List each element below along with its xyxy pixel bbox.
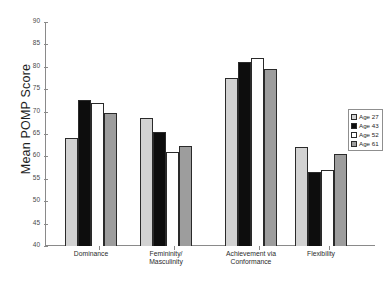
legend-label: Age 43: [359, 122, 379, 129]
bar[interactable]: [153, 132, 166, 246]
bar-set: [65, 22, 121, 246]
bar[interactable]: [334, 154, 347, 246]
bar-group: [65, 22, 121, 246]
bar-group: [225, 22, 281, 246]
y-tick-label: 60: [33, 151, 40, 158]
bar-set: [140, 22, 196, 246]
bar[interactable]: [104, 113, 117, 247]
plot-area: 9085807570656055504540 DominanceFeminini…: [45, 22, 375, 246]
x-category-label: Flexibility: [261, 250, 381, 258]
y-tick-label: 70: [33, 107, 40, 114]
legend-item[interactable]: Age 52: [351, 130, 379, 139]
y-tick-label: 90: [33, 17, 40, 24]
legend-item[interactable]: Age 43: [351, 121, 379, 130]
chart-legend: Age 27 Age 43 Age 52 Age 61: [348, 109, 383, 151]
legend-swatch-icon: [351, 114, 357, 120]
bar[interactable]: [179, 146, 192, 246]
legend-item[interactable]: Age 61: [351, 139, 379, 148]
legend-swatch-icon: [351, 132, 357, 138]
y-tick-label: 40: [33, 241, 40, 248]
bar-set: [225, 22, 281, 246]
bar-groups: DominanceFemininity/ MasculinityAchievem…: [45, 22, 375, 246]
bar[interactable]: [65, 138, 78, 246]
y-tick-label: 45: [33, 219, 40, 226]
bar[interactable]: [321, 170, 334, 246]
y-tick-label: 75: [33, 84, 40, 91]
bar-group: [140, 22, 196, 246]
bar[interactable]: [225, 78, 238, 246]
bar-group: [295, 22, 351, 246]
bar[interactable]: [78, 100, 91, 246]
y-tick: 40: [44, 246, 48, 247]
y-tick-label: 80: [33, 62, 40, 69]
legend-swatch-icon: [351, 123, 357, 129]
bar[interactable]: [166, 152, 179, 246]
bar-set: [295, 22, 351, 246]
bar[interactable]: [251, 58, 264, 246]
legend-swatch-icon: [351, 141, 357, 147]
bar[interactable]: [295, 147, 308, 246]
bar[interactable]: [264, 69, 277, 246]
legend-label: Age 52: [359, 131, 379, 138]
y-tick-label: 50: [33, 196, 40, 203]
y-axis-title: Mean POMP Score: [19, 34, 33, 204]
y-tick-label: 85: [33, 39, 40, 46]
y-tick-label: 65: [33, 129, 40, 136]
bar[interactable]: [238, 62, 251, 246]
bar[interactable]: [140, 118, 153, 246]
bar-chart: Mean POMP Score 9085807570656055504540 D…: [0, 0, 391, 286]
bar[interactable]: [308, 172, 321, 246]
legend-label: Age 27: [359, 113, 379, 120]
legend-label: Age 61: [359, 140, 379, 147]
legend-item[interactable]: Age 27: [351, 112, 379, 121]
bar[interactable]: [91, 103, 104, 246]
y-tick-label: 55: [33, 174, 40, 181]
